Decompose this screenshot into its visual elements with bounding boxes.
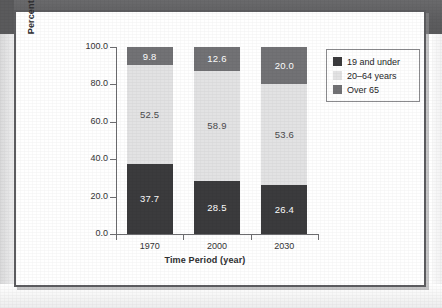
stacked-bar-chart: Percentage of People Time Period (year) …	[16, 12, 424, 285]
scan-edge-bottom-shadow	[0, 284, 442, 308]
scanned-page-background: Percentage of People Time Period (year) …	[0, 0, 442, 308]
legend-swatch-icon	[333, 57, 342, 66]
plot-area: 37.752.59.828.558.912.626.453.620.0	[116, 47, 318, 234]
x-tick-mark	[318, 234, 319, 240]
y-tick-label: 80.0	[62, 78, 108, 88]
x-tick-mark	[183, 234, 184, 240]
legend-item-label: 20–64 years	[347, 71, 397, 81]
y-tick-label: 60.0	[62, 116, 108, 126]
legend-item-label: 19 and under	[347, 57, 400, 67]
bar-segment[interactable]: 53.6	[261, 84, 307, 184]
bar-segment[interactable]: 37.7	[127, 164, 173, 234]
chart-legend: 19 and under20–64 yearsOver 65	[326, 49, 420, 102]
x-tick-mark	[251, 234, 252, 240]
bar-segment[interactable]: 58.9	[194, 71, 240, 181]
legend-item[interactable]: Over 65	[333, 83, 414, 96]
x-tick-mark	[116, 234, 117, 240]
bar-segment[interactable]: 9.8	[127, 47, 173, 65]
scan-edge-right-shadow	[432, 34, 442, 308]
bar-segment[interactable]: 52.5	[127, 65, 173, 163]
bar-segment[interactable]: 12.6	[194, 47, 240, 71]
y-tick-label: 20.0	[62, 191, 108, 201]
bar-group-2000[interactable]: 28.558.912.6	[194, 47, 240, 234]
bar-group-2030[interactable]: 26.453.620.0	[261, 47, 307, 234]
legend-swatch-icon	[333, 85, 342, 94]
figure-frame: Percentage of People Time Period (year) …	[14, 10, 426, 287]
legend-item[interactable]: 20–64 years	[333, 69, 414, 82]
y-axis-title: Percentage of People	[26, 0, 40, 62]
x-tick-label: 2000	[187, 241, 247, 251]
bar-segment[interactable]: 26.4	[261, 185, 307, 234]
bar-segment[interactable]: 28.5	[194, 181, 240, 234]
bar-group-1970[interactable]: 37.752.59.8	[127, 47, 173, 234]
y-tick-label: 100.0	[62, 41, 108, 51]
y-tick-label: 40.0	[62, 153, 108, 163]
x-tick-label: 1970	[120, 241, 180, 251]
bar-segment[interactable]: 20.0	[261, 47, 307, 84]
x-axis-line	[116, 234, 319, 235]
legend-item-label: Over 65	[347, 85, 379, 95]
x-axis-title: Time Period (year)	[90, 255, 320, 265]
y-tick-label: 0.0	[62, 228, 108, 238]
legend-swatch-icon	[333, 71, 342, 80]
legend-item[interactable]: 19 and under	[333, 55, 414, 68]
x-tick-label: 2030	[254, 241, 314, 251]
